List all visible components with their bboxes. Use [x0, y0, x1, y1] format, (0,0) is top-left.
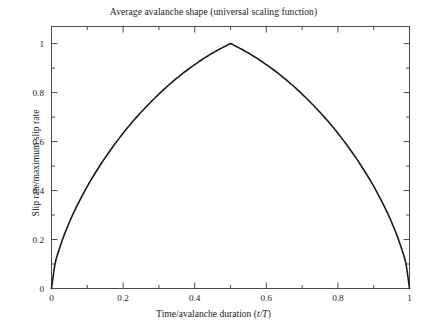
x-tick-label: 1: [407, 293, 412, 303]
x-tick-label: 0: [49, 293, 54, 303]
y-tick-label: 0: [14, 284, 44, 294]
x-axis-title-suffix: ): [268, 308, 271, 319]
chart-figure: Average avalanche shape (universal scali…: [0, 0, 427, 329]
avalanche-shape-curve: [52, 44, 410, 289]
x-tick-label: 0.8: [332, 293, 343, 303]
x-tick-label: 0.2: [117, 293, 128, 303]
x-axis-title: Time/avalanche duration (t/T): [0, 308, 427, 320]
x-axis-title-symbol: t/T: [257, 308, 268, 319]
x-tick-label: 0.4: [189, 293, 200, 303]
plot-canvas: [0, 0, 427, 329]
x-tick-label: 0.6: [261, 293, 272, 303]
y-axis-title: Slip rate/maximum slip rate: [30, 43, 42, 283]
x-axis-title-prefix: Time/avalanche duration (: [156, 308, 257, 319]
